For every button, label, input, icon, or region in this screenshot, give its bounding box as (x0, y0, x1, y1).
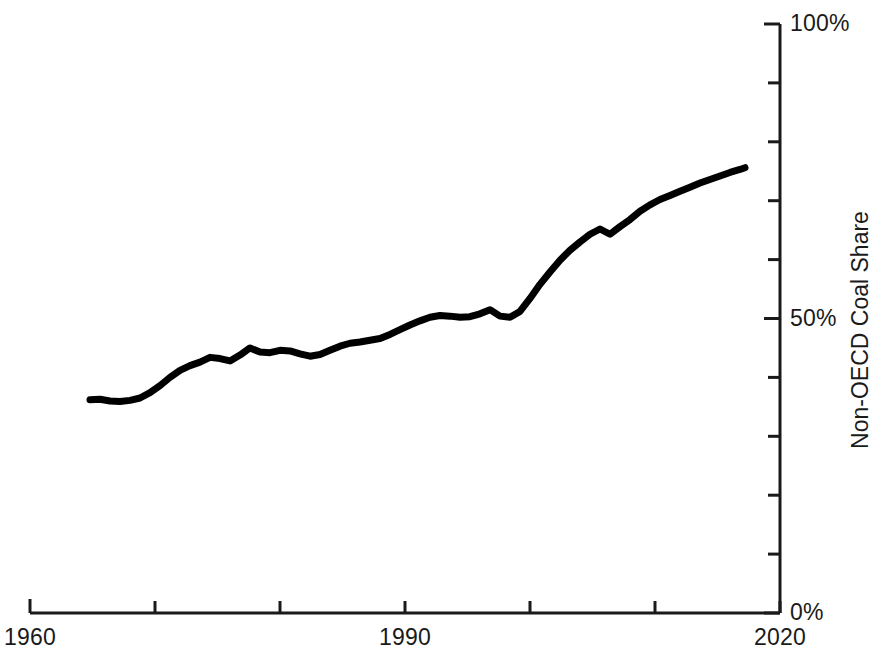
x-axis-tick-label-1960: 1960 (4, 624, 56, 651)
y-axis-tick-label-50: 50% (790, 305, 837, 332)
chart-plot-area (0, 0, 889, 665)
y-axis-tick-label-0: 0% (790, 599, 824, 626)
data-series-line (90, 168, 745, 402)
x-axis-tick-label-2020: 2020 (754, 624, 806, 651)
y-axis-tick-label-100: 100% (790, 10, 850, 37)
axis-lines (30, 24, 780, 613)
chart-container: 1960 1990 2020 0% 50% 100% Non-OECD Coal… (0, 0, 889, 665)
y-axis-title: Non-OECD Coal Share (847, 200, 874, 460)
tick-marks (30, 24, 780, 613)
x-axis-tick-label-1990: 1990 (379, 624, 431, 651)
